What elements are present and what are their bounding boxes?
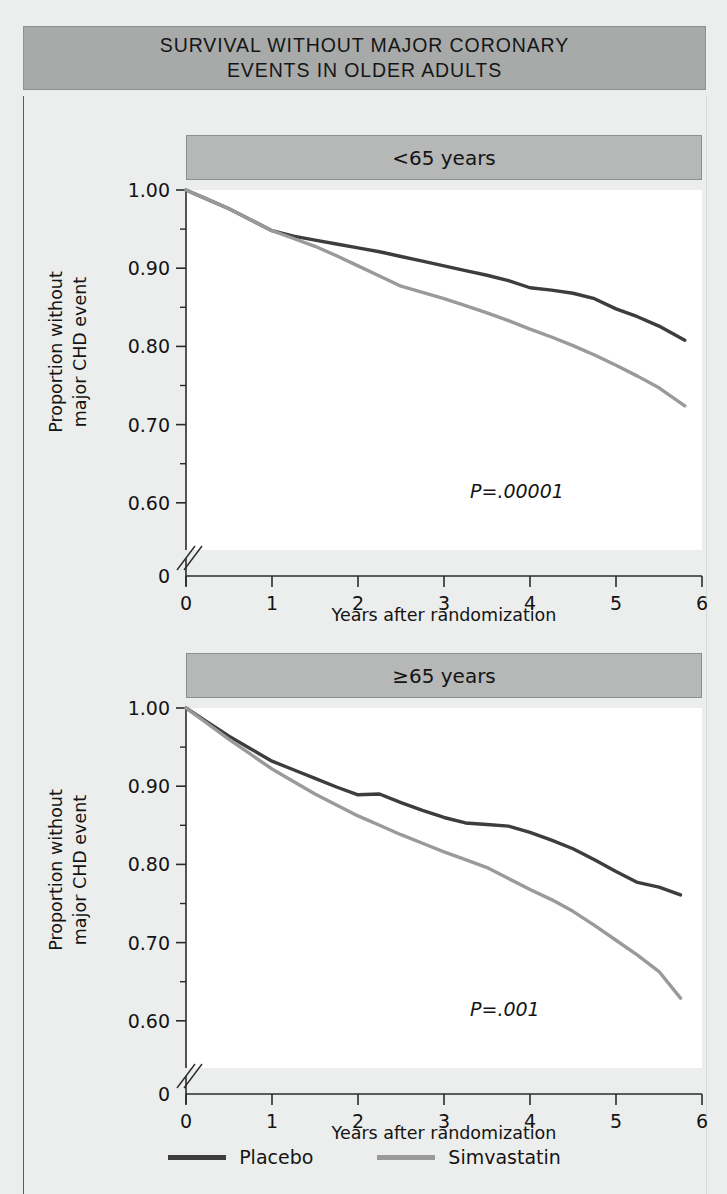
legend-entry-placebo: Placebo: [168, 1146, 313, 1168]
p-value-annotation: P=.00001: [470, 480, 564, 502]
legend-swatch-placebo: [168, 1155, 226, 1160]
svg-text:0.60: 0.60: [128, 1010, 170, 1032]
plot-area-under-65: 1.000.900.800.700.6000123456: [0, 118, 727, 638]
figure-title-line-1: SURVIVAL WITHOUT MAJOR CORONARY: [160, 33, 569, 58]
figure-legend: Placebo Simvastatin: [23, 1146, 706, 1168]
svg-text:0: 0: [158, 1083, 170, 1105]
svg-text:0.90: 0.90: [128, 775, 170, 797]
figure-title-line-2: EVENTS IN OLDER ADULTS: [227, 58, 502, 83]
svg-text:1.00: 1.00: [128, 697, 170, 719]
legend-label-simvastatin: Simvastatin: [448, 1146, 561, 1168]
svg-text:0.70: 0.70: [128, 932, 170, 954]
chart-panel-under-65: <65 years Proportion without major CHD e…: [0, 118, 727, 638]
svg-text:0.70: 0.70: [128, 414, 170, 436]
svg-text:0.80: 0.80: [128, 853, 170, 875]
x-axis-caption: Years after randomization: [186, 605, 702, 625]
svg-text:1.00: 1.00: [128, 179, 170, 201]
plot-area-over-65: 1.000.900.800.700.6000123456: [0, 636, 727, 1156]
svg-text:0.60: 0.60: [128, 492, 170, 514]
legend-label-placebo: Placebo: [239, 1146, 313, 1168]
figure-root: SURVIVAL WITHOUT MAJOR CORONARY EVENTS I…: [0, 0, 727, 1194]
svg-text:0.90: 0.90: [128, 257, 170, 279]
svg-text:0.80: 0.80: [128, 335, 170, 357]
legend-swatch-simvastatin: [377, 1155, 435, 1160]
svg-text:0: 0: [158, 565, 170, 587]
x-axis-caption: Years after randomization: [186, 1123, 702, 1143]
legend-entry-simvastatin: Simvastatin: [377, 1146, 561, 1168]
chart-panel-over-65: ≥65 years Proportion without major CHD e…: [0, 636, 727, 1156]
figure-title-banner: SURVIVAL WITHOUT MAJOR CORONARY EVENTS I…: [23, 26, 706, 90]
p-value-annotation: P=.001: [470, 998, 540, 1020]
